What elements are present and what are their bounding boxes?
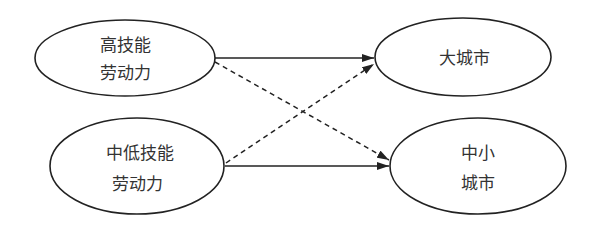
node-label-line: 劳动力 bbox=[100, 63, 151, 83]
node-label-line: 劳动力 bbox=[112, 174, 163, 194]
labor-city-flow-diagram: 高技能 劳动力 中低技能 劳动力 大城市 中小 城市 bbox=[0, 0, 592, 229]
edge-mid-low-skill-to-big-city bbox=[226, 64, 374, 163]
node-ellipse bbox=[35, 20, 215, 96]
node-small-mid-city: 中小 城市 bbox=[390, 118, 566, 214]
node-high-skill-labor: 高技能 劳动力 bbox=[35, 20, 215, 96]
node-label-line: 高技能 bbox=[100, 35, 151, 55]
node-big-city: 大城市 bbox=[375, 18, 551, 96]
node-ellipse bbox=[390, 118, 566, 214]
node-ellipse bbox=[50, 118, 224, 214]
node-label-line: 中低技能 bbox=[106, 143, 174, 163]
node-mid-low-skill-labor: 中低技能 劳动力 bbox=[50, 118, 224, 214]
node-label-line: 大城市 bbox=[439, 48, 490, 68]
edge-high-skill-to-small-mid-city bbox=[215, 62, 389, 160]
node-label-line: 城市 bbox=[461, 173, 495, 193]
node-label-line: 中小 bbox=[461, 143, 495, 163]
